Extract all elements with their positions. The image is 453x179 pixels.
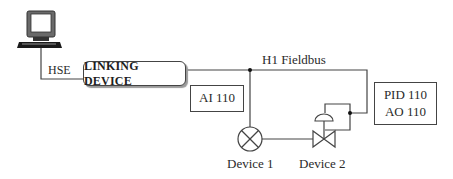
- hse-label: HSE: [48, 64, 71, 76]
- h1-fieldbus-label: H1 Fieldbus: [262, 53, 326, 66]
- linking-device-box: LINKING DEVICE: [83, 61, 186, 86]
- instrument-circle-x-icon: [238, 127, 262, 151]
- device2-label: Device 2: [299, 157, 346, 170]
- computer-icon: [17, 11, 62, 48]
- linking-device-label: LINKING DEVICE: [84, 59, 185, 89]
- ao-block-label: AO 110: [385, 104, 426, 121]
- valve-junction-dot: [348, 111, 352, 115]
- bus-junction-dot: [248, 68, 252, 72]
- ai-block-box: AI 110: [190, 85, 244, 112]
- pid-ao-block-box: PID 110 AO 110: [374, 82, 437, 125]
- ai-block-label: AI 110: [199, 90, 235, 107]
- fieldbus-diagram: HSE LINKING DEVICE H1 Fieldbus AI 110 PI…: [0, 0, 453, 179]
- device1-label: Device 1: [227, 157, 274, 170]
- pid-block-label: PID 110: [384, 87, 427, 104]
